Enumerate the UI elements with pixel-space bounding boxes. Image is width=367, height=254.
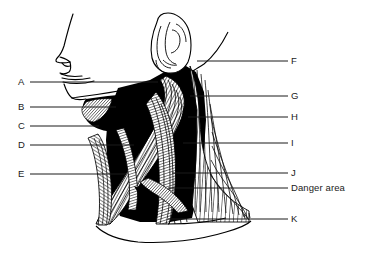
- label-J: J: [291, 168, 296, 178]
- label-F: F: [291, 56, 297, 66]
- label-C: C: [18, 121, 25, 131]
- label-E: E: [18, 169, 24, 179]
- label-danger-area: Danger area: [291, 183, 345, 193]
- label-I: I: [291, 138, 294, 148]
- ear: [151, 13, 191, 73]
- label-B: B: [18, 102, 24, 112]
- posterior-head-contour: [192, 32, 228, 72]
- label-D: D: [18, 140, 25, 150]
- label-G: G: [291, 91, 299, 101]
- label-H: H: [291, 112, 298, 122]
- face-profile: [56, 14, 94, 100]
- anatomy-figure: [0, 0, 367, 254]
- label-A: A: [18, 77, 24, 87]
- label-K: K: [291, 214, 297, 224]
- anatomy-illustration: [0, 0, 367, 254]
